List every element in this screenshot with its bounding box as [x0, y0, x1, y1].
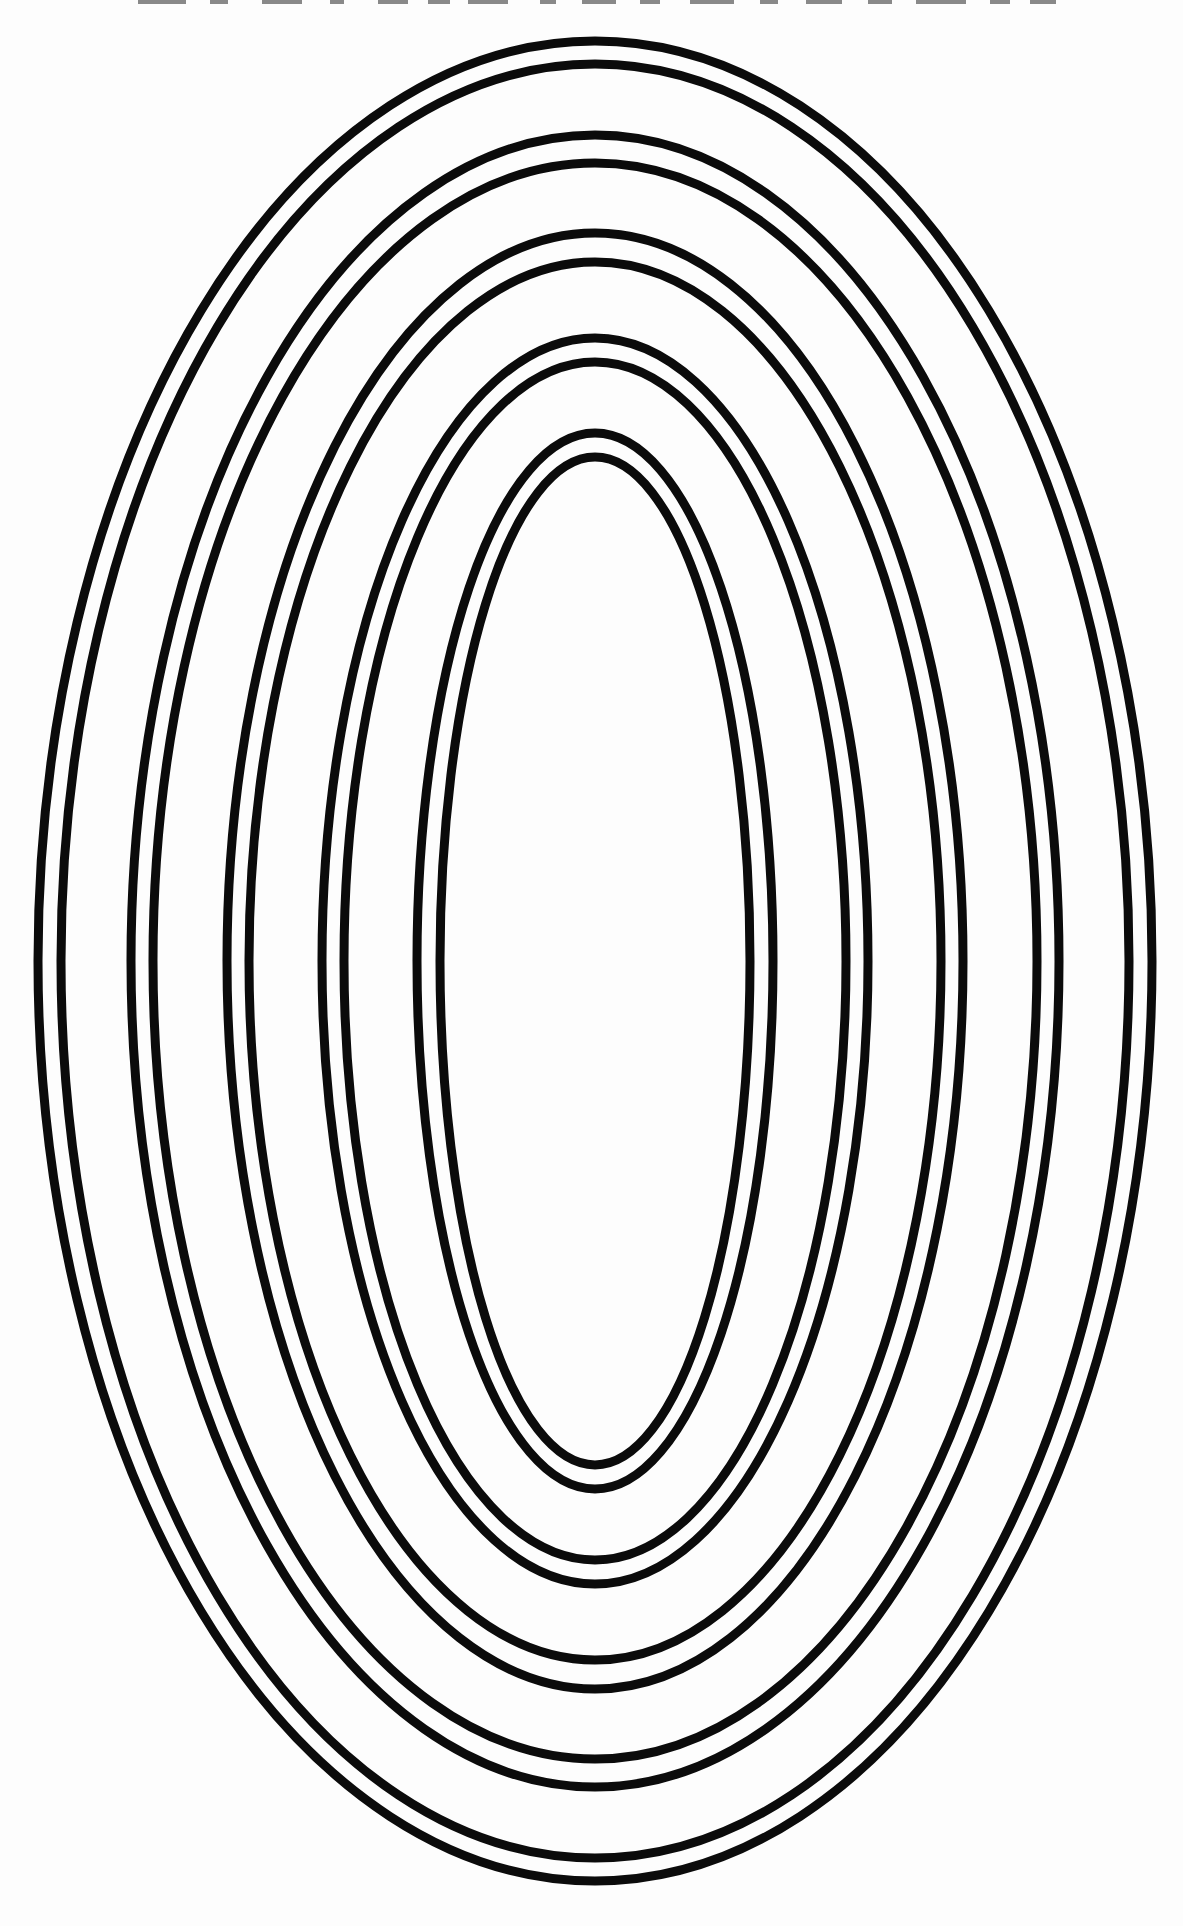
scan-noise-artifact — [806, 0, 842, 4]
scan-noise-artifact — [428, 0, 450, 4]
ring-3-outer-line — [227, 233, 963, 1689]
ring-1-outermost-outer-line — [38, 41, 1152, 1881]
scan-noise-artifact — [138, 0, 186, 4]
scan-noise-artifact — [690, 0, 734, 4]
scan-noise-artifact — [540, 0, 556, 4]
scan-noise-artifact — [582, 0, 616, 4]
scan-noise-artifact — [916, 0, 966, 4]
scan-noise-artifact — [760, 0, 778, 4]
ring-5-innermost-outer-line — [417, 433, 773, 1489]
ring-3-inner-line — [249, 262, 941, 1660]
ring-5-innermost-inner-line — [440, 457, 750, 1465]
scan-noise-artifact — [330, 0, 344, 4]
scanned-page — [0, 0, 1183, 1926]
ring-1-outermost-inner-line — [61, 64, 1129, 1858]
ring-2-inner-line — [153, 163, 1037, 1759]
ring-4-outer-line — [322, 338, 868, 1584]
scan-noise-artifact — [210, 0, 228, 4]
scan-noise-artifact — [990, 0, 1010, 4]
scan-noise-artifact — [468, 0, 508, 4]
scan-noise-artifact — [640, 0, 660, 4]
concentric-ovals-figure — [0, 0, 1183, 1926]
scan-noise-artifact — [378, 0, 408, 4]
scan-noise-artifact — [1030, 0, 1056, 4]
scan-noise-artifact — [262, 0, 302, 4]
ring-2-outer-line — [131, 135, 1059, 1787]
scan-noise-artifact — [868, 0, 892, 4]
